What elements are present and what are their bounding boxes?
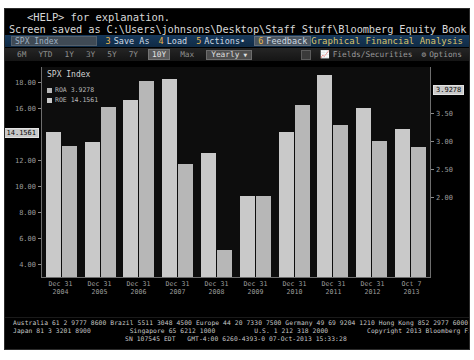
frequency-label: Yearly xyxy=(211,50,239,59)
x-axis-label: Dec 312010 xyxy=(283,280,307,296)
legend-title: SPX Index xyxy=(47,70,98,79)
x-axis-label: Oct 72013 xyxy=(402,280,422,296)
bar-roa xyxy=(295,105,310,277)
range-button-6m[interactable]: 6M xyxy=(15,50,28,59)
x-axis-label-date: Dec 31 xyxy=(205,280,229,288)
range-bar: 6MYTD1Y3Y5Y7Y10YMax Yearly ▼ 📈 Fields/Se… xyxy=(5,47,469,61)
x-axis-label-year: 2013 xyxy=(402,288,422,296)
ticker-input[interactable]: SPX Index xyxy=(11,36,97,46)
x-axis-label-date: Dec 31 xyxy=(49,280,73,288)
y-tick-right xyxy=(431,197,434,198)
frequency-dropdown[interactable]: Yearly ▼ xyxy=(206,50,252,60)
bar-roa xyxy=(139,81,154,277)
command-items: 3Save As4Load5Actions•6Feedback xyxy=(97,36,312,46)
command-item-label: Load xyxy=(167,36,187,46)
bar-roa xyxy=(178,164,193,277)
screenshot-root: <HELP> for explanation. Screen saved as … xyxy=(0,0,474,360)
bar-roe xyxy=(279,132,294,277)
y-current-value-left: 14.1561 xyxy=(4,128,39,138)
x-axis xyxy=(41,277,431,278)
footer-line-3: SN 107545 EDT GMT-4:00 6260-4393-0 07-Oc… xyxy=(5,335,469,343)
y-tick-left xyxy=(38,82,41,83)
grid-icon[interactable] xyxy=(301,50,311,60)
y-tick-left xyxy=(38,108,41,109)
command-item-label: Save As xyxy=(114,36,150,46)
x-axis-label-date: Oct 7 xyxy=(402,280,422,288)
y-label-left: 18.00 xyxy=(15,79,36,87)
top-margin xyxy=(0,0,474,8)
legend-rows: ROA 3.9278ROE 14.1561 xyxy=(47,86,98,104)
y-tick-left xyxy=(38,186,41,187)
x-axis-label-date: Dec 31 xyxy=(283,280,307,288)
range-button-5y[interactable]: 5Y xyxy=(105,50,118,59)
help-line: <HELP> for explanation. xyxy=(5,9,469,23)
x-axis-label-year: 2006 xyxy=(127,288,151,296)
range-button-1y[interactable]: 1Y xyxy=(62,50,75,59)
y-label-left: 6.00 xyxy=(19,235,36,243)
fields-securities-button[interactable]: 📈 Fields/Securities xyxy=(320,50,413,59)
range-button-10y[interactable]: 10Y xyxy=(148,49,170,60)
footer-status-bar: Australia 61 2 9777 8600 Brazil 5511 304… xyxy=(5,317,469,349)
x-axis-label-date: Dec 31 xyxy=(88,280,112,288)
command-item-save-as[interactable]: 3Save As xyxy=(106,36,150,46)
command-item-feedback[interactable]: 6Feedback xyxy=(254,36,311,46)
screen-saved-line: Screen saved as C:\Users\johnsons\Deskto… xyxy=(5,23,469,35)
bar-roa xyxy=(217,250,232,277)
gear-icon: ⚙ xyxy=(421,50,426,59)
bar-roe xyxy=(395,129,410,277)
command-item-label: Actions xyxy=(204,36,240,46)
bar-series-container xyxy=(42,67,430,277)
footer-line-1: Australia 61 2 9777 8600 Brazil 5511 304… xyxy=(5,319,469,327)
y-tick-left xyxy=(38,160,41,161)
x-axis-label-year: 2009 xyxy=(244,288,268,296)
y-label-left: 12.00 xyxy=(15,157,36,165)
x-axis-label: Dec 312008 xyxy=(205,280,229,296)
range-bar-right: 📈 Fields/Securities ⚙ Options xyxy=(301,50,462,60)
y-label-left: 8.00 xyxy=(19,209,36,217)
bar-group xyxy=(123,67,154,277)
bar-group xyxy=(201,67,232,277)
legend-entry-text: ROA 3.9278 xyxy=(55,86,94,94)
x-axis-label-date: Dec 31 xyxy=(127,280,151,288)
range-button-7y[interactable]: 7Y xyxy=(127,50,140,59)
x-axis-label: Dec 312004 xyxy=(49,280,73,296)
bloomberg-terminal-window: <HELP> for explanation. Screen saved as … xyxy=(4,8,470,350)
y-label-right: 3.50 xyxy=(436,110,453,118)
command-item-load[interactable]: 4Load xyxy=(159,36,188,46)
x-axis-label: Dec 312005 xyxy=(88,280,112,296)
bar-group xyxy=(317,67,348,277)
y-tick-left xyxy=(38,264,41,265)
range-button-ytd[interactable]: YTD xyxy=(36,50,54,59)
x-axis-labels: Dec 312004Dec 312005Dec 312006Dec 312007… xyxy=(41,280,431,304)
command-item-actions[interactable]: 5Actions• xyxy=(196,36,245,46)
y-axis-right xyxy=(430,67,431,278)
command-item-label: Feedback xyxy=(266,36,307,46)
bar-roa xyxy=(411,147,426,277)
options-button[interactable]: ⚙ Options xyxy=(421,50,462,59)
bar-roe xyxy=(85,142,100,277)
command-item-number: 6 xyxy=(258,36,263,46)
range-button-max[interactable]: Max xyxy=(178,50,196,59)
command-item-number: 4 xyxy=(159,36,164,46)
x-axis-label-year: 2012 xyxy=(361,288,385,296)
legend-swatch-icon xyxy=(47,88,52,93)
options-label: Options xyxy=(429,50,462,59)
bar-roe xyxy=(162,79,177,277)
y-tick-right xyxy=(431,169,434,170)
chart-area: 18.0016.0012.0010.008.006.004.0014.1561 … xyxy=(5,61,469,310)
y-tick-right xyxy=(431,113,434,114)
bar-roa xyxy=(256,196,271,277)
x-axis-label: Dec 312009 xyxy=(244,280,268,296)
chart-legend: SPX Index ROA 3.9278ROE 14.1561 xyxy=(47,70,98,106)
legend-entry-roa: ROA 3.9278 xyxy=(47,86,98,94)
bar-roa xyxy=(62,146,77,277)
footer-line-2: Japan 81 3 3201 8900 Singapore 65 6212 1… xyxy=(5,327,469,335)
x-axis-label-year: 2008 xyxy=(205,288,229,296)
x-axis-label-year: 2007 xyxy=(166,288,190,296)
bar-group xyxy=(162,67,193,277)
command-item-suffix-icon: • xyxy=(240,36,245,46)
range-button-3y[interactable]: 3Y xyxy=(84,50,97,59)
bar-roe xyxy=(240,196,255,277)
command-item-number: 3 xyxy=(106,36,111,46)
y-label-right: 2.50 xyxy=(436,166,453,174)
